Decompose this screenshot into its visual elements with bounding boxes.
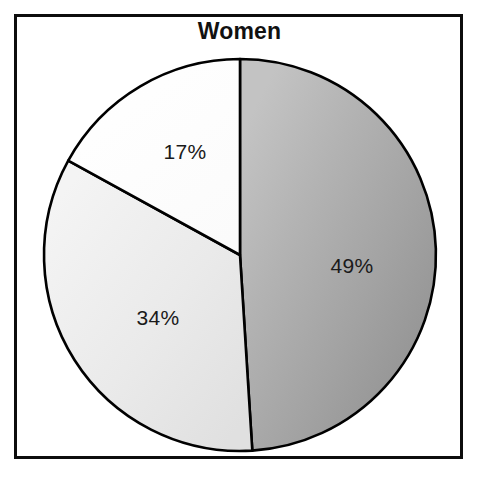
pie-chart-canvas [0,0,479,484]
pie-slice-label-17: 17% [164,140,207,164]
pie-slices-group [44,59,436,451]
pie-chart-figure: Women 49% 34% 17% [0,0,479,484]
pie-slice-label-34: 34% [137,306,180,330]
pie-slice-label-49: 49% [331,254,374,278]
